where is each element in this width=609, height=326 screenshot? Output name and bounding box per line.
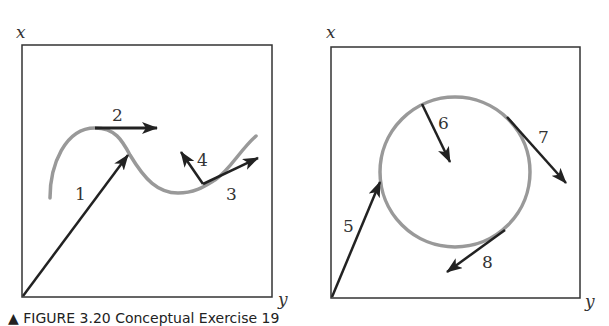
vector-4-label: 4 <box>197 150 208 170</box>
vector-5-label: 5 <box>343 216 354 236</box>
vector-6-label: 6 <box>438 113 449 133</box>
vector-7-label: 7 <box>538 127 549 147</box>
vector-2-label: 2 <box>112 105 123 125</box>
left-panel: x y 1 2 3 4 <box>16 22 288 309</box>
vector-3 <box>203 158 258 184</box>
vector-1-label: 1 <box>75 184 86 204</box>
x-axis-label-right: x <box>326 22 336 42</box>
vector-8-label: 8 <box>482 252 493 272</box>
x-axis-label-left: x <box>16 22 26 42</box>
vector-3-label: 3 <box>226 184 237 204</box>
vector-8 <box>447 230 505 272</box>
vector-7 <box>507 117 566 183</box>
y-axis-label-left: y <box>277 289 288 309</box>
vector-5 <box>332 182 380 297</box>
frame-left <box>22 45 272 297</box>
frame-right <box>331 47 580 298</box>
vector-1 <box>23 155 128 296</box>
figure-caption: ▲ FIGURE 3.20 Conceptual Exercise 19 <box>8 310 279 326</box>
circle-path <box>380 97 530 247</box>
right-panel: x y 5 6 7 8 <box>326 22 595 311</box>
y-axis-label-right: y <box>584 291 595 311</box>
